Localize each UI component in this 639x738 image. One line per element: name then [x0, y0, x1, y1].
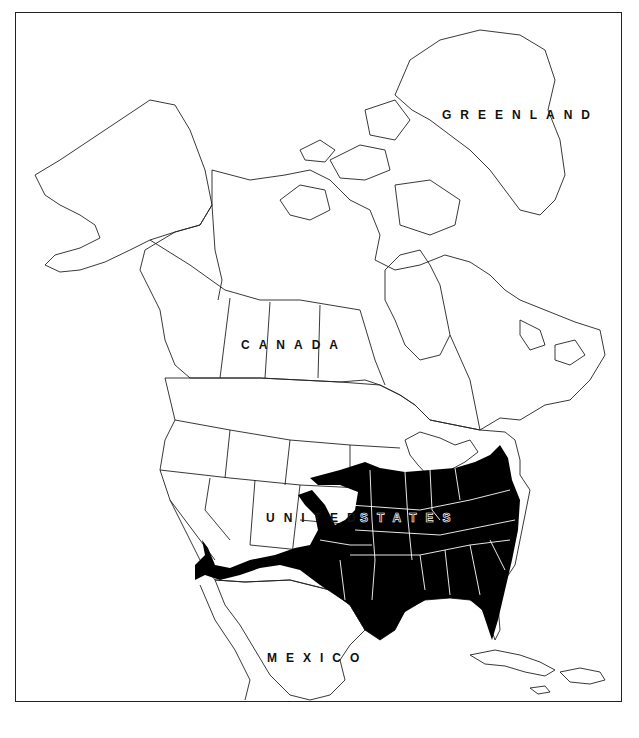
arctic-island: [365, 100, 410, 140]
arctic-island: [280, 185, 330, 220]
hudson-bay: [385, 250, 450, 360]
arctic-island: [395, 180, 460, 235]
arctic-island: [330, 145, 390, 180]
greenland-outline: [395, 30, 565, 215]
label-mexico: MEXICO: [267, 651, 368, 665]
canada-outline: [140, 170, 605, 430]
label-states: STATES: [360, 511, 460, 525]
arctic-island: [300, 140, 335, 162]
label-united: UNITED: [266, 511, 365, 525]
species-range: [195, 445, 520, 640]
jamaica-outline: [530, 686, 550, 694]
cuba-outline: [470, 650, 555, 676]
label-greenland: GREENLAND: [442, 108, 599, 122]
range-area: [195, 445, 520, 640]
hispaniola-outline: [560, 668, 605, 684]
alaska-outline: [35, 100, 212, 272]
label-canada: CANADA: [241, 338, 347, 352]
